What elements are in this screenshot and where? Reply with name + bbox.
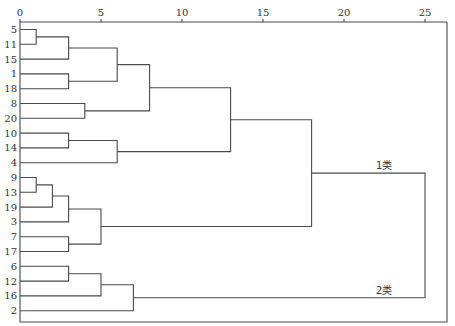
merge-link [133,173,425,298]
merge-link [69,48,118,81]
merge-link [101,120,312,227]
leaf-label: 19 [4,202,17,213]
leaf-label: 11 [4,39,17,50]
leaf-label: 3 [11,216,17,227]
leaf-label: 14 [4,142,17,153]
leaf-label: 2 [11,305,17,316]
leaf-label: 5 [11,24,17,35]
axis-tick-label: 10 [176,7,189,18]
merge-link [20,74,69,89]
leaf-label: 9 [11,172,17,183]
cluster-label-1: 1类 [376,159,392,171]
axis-tick-label: 25 [419,7,432,18]
merge-link [20,237,69,252]
top-axis: 0510152025 [17,7,447,22]
merge-link [20,274,101,296]
merge-link [20,30,36,45]
chart-frame [20,22,447,322]
merge-link [20,285,133,311]
leaf-label: 16 [4,290,17,301]
merge-link [117,88,230,152]
dendrogram-chart: 0510152025 51115118820101449131937176121… [0,0,455,326]
leaf-label: 17 [4,246,17,257]
leaf-label: 6 [11,261,17,272]
merge-link [20,133,69,148]
merge-link [20,266,69,281]
axis-tick-label: 0 [17,7,23,18]
merge-link [69,209,101,244]
cluster-label-2: 2类 [376,284,392,296]
leaf-label: 12 [4,276,17,287]
dendrogram-links [20,30,425,311]
leaf-label: 4 [11,157,17,168]
leaf-label: 1 [11,68,17,79]
axis-tick-label: 15 [257,7,270,18]
axis-tick-label: 5 [98,7,104,18]
leaf-labels: 5111511882010144913193717612162 [4,24,17,316]
leaf-label: 18 [4,83,17,94]
axis-tick-label: 20 [338,7,351,18]
merge-link [20,178,36,193]
merge-link [20,196,69,222]
leaf-label: 8 [11,98,17,109]
merge-link [20,37,69,59]
leaf-label: 10 [4,128,17,139]
merge-link [20,104,85,119]
leaf-label: 13 [4,187,17,198]
leaf-label: 7 [11,231,17,242]
leaf-label: 20 [4,113,17,124]
leaf-label: 15 [4,54,17,65]
